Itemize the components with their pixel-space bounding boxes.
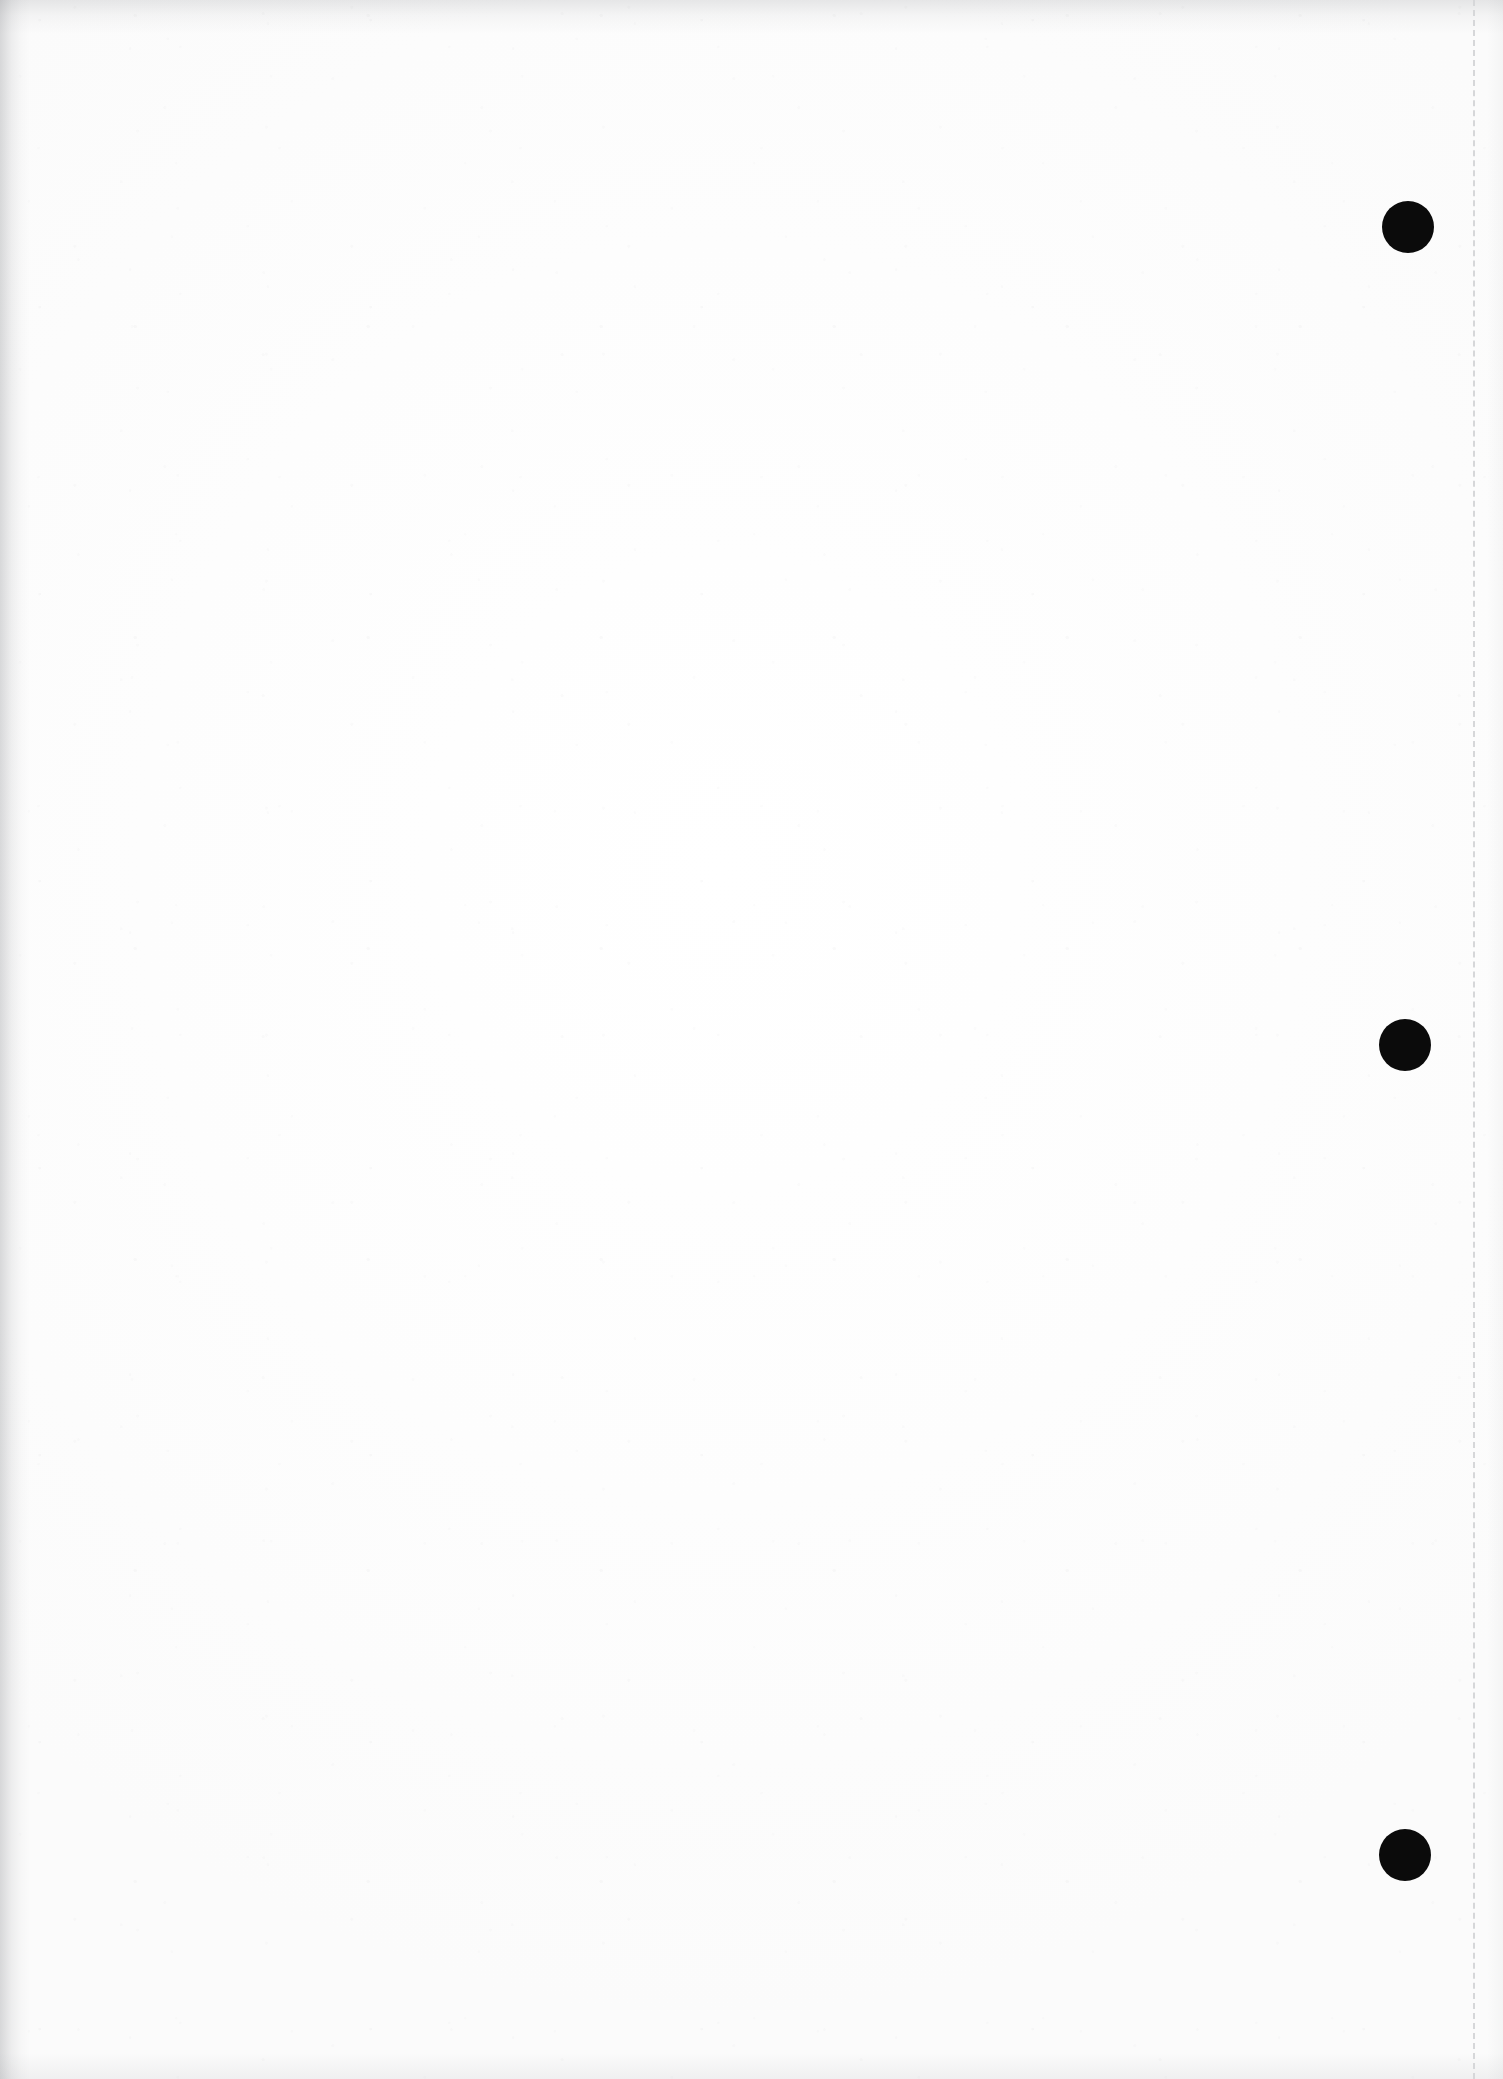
scanned-page bbox=[0, 0, 1503, 2079]
dashed-margin-rule bbox=[1473, 0, 1475, 2079]
margin-dot bbox=[1379, 1829, 1431, 1881]
margin-dot bbox=[1382, 201, 1434, 253]
paper-background bbox=[0, 0, 1503, 2079]
margin-dot bbox=[1379, 1019, 1431, 1071]
